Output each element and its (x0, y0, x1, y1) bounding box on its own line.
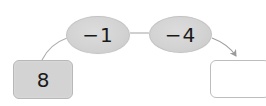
answer-box[interactable] (210, 60, 266, 98)
start-value-box: 8 (13, 60, 73, 99)
operation-label: −1 (82, 23, 113, 47)
operation-label: −4 (165, 23, 196, 47)
connector-start-to-op1 (42, 38, 67, 60)
arrow-op2-to-result (212, 38, 236, 56)
start-value: 8 (37, 68, 50, 92)
operation-oval-minus-4: −4 (149, 16, 212, 53)
operation-oval-minus-1: −1 (66, 16, 130, 54)
